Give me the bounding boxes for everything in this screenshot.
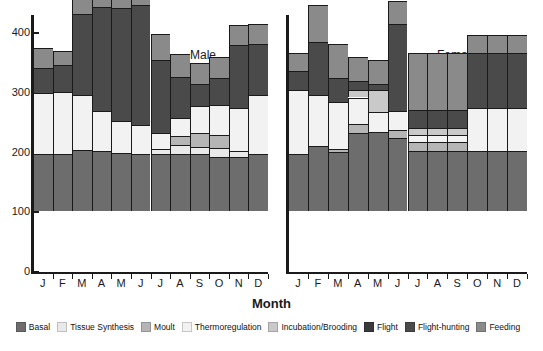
bar-segment-moult <box>447 142 467 151</box>
bar-segment-feeding <box>348 57 368 81</box>
bar-segment-feeding <box>507 35 527 53</box>
bar-segment-feeding <box>388 1 408 24</box>
bar-segment-basal <box>447 151 467 211</box>
bar-segment-thermoregulation <box>308 95 328 147</box>
bar-segment-flight_hunting <box>388 24 408 111</box>
bar-female-S-8 <box>447 0 467 211</box>
bar-segment-basal <box>487 151 507 211</box>
bar-segment-feeding <box>288 53 308 71</box>
bar-segment-flight_hunting <box>507 53 527 109</box>
bar-segment-thermoregulation <box>368 112 388 131</box>
legend-item-basal[interactable]: Basal <box>16 322 50 332</box>
bar-segment-flight_hunting <box>348 81 368 90</box>
x-axis-tick-label-J-0: J <box>289 277 307 289</box>
x-axis-tick-label-N-10: N <box>488 277 506 289</box>
bar-segment-moult <box>408 142 428 151</box>
bar-segment-incubation_brooding <box>427 128 447 135</box>
bar-segment-basal <box>507 151 527 211</box>
bar-segment-basal <box>368 132 388 211</box>
legend-label: Tissue Synthesis <box>70 322 134 332</box>
bar-segment-thermoregulation <box>507 108 527 151</box>
bar-female-N-10 <box>487 0 507 211</box>
bar-female-O-9 <box>467 0 487 211</box>
bar-female-M-4 <box>368 0 388 211</box>
legend-item-flight[interactable]: Flight <box>364 322 398 332</box>
legend-item-moult[interactable]: Moult <box>141 322 175 332</box>
legend-item-thermoregulation[interactable]: Thermoregulation <box>182 322 262 332</box>
bar-segment-flight_hunting <box>328 78 348 102</box>
bar-segment-basal <box>427 151 447 211</box>
x-axis-baseline <box>286 272 527 274</box>
legend-swatch-icon <box>476 322 486 332</box>
bar-segment-thermoregulation <box>348 98 368 125</box>
bar-segment-flight_hunting <box>447 110 467 128</box>
bar-segment-feeding <box>408 53 428 110</box>
bar-segment-feeding <box>487 35 507 53</box>
x-axis-tick-label-J-6: J <box>408 277 426 289</box>
bar-segment-thermoregulation <box>487 108 507 151</box>
bar-segment-basal <box>308 146 328 211</box>
bar-segment-basal <box>467 151 487 211</box>
bar-segment-thermoregulation <box>388 111 408 131</box>
legend-item-feeding[interactable]: Feeding <box>476 322 520 332</box>
bar-segment-feeding <box>328 44 348 78</box>
bar-segment-feeding <box>467 35 487 53</box>
bar-segment-basal <box>348 133 368 211</box>
bar-segment-thermoregulation <box>328 102 348 150</box>
bar-segment-basal <box>328 152 348 211</box>
legend-label: Flight <box>377 322 398 332</box>
bar-segment-incubation_brooding <box>408 128 428 135</box>
legend-swatch-icon <box>405 322 415 332</box>
legend-item-tissue-synthesis[interactable]: Tissue Synthesis <box>57 322 134 332</box>
x-axis-tick-label-F-1: F <box>309 277 327 289</box>
bar-segment-flight_hunting <box>288 71 308 91</box>
bar-segment-moult <box>388 130 408 138</box>
x-axis-tick-label-O-9: O <box>468 277 486 289</box>
chart-root: 0100200300400 Male JFMAMJJASOND Female J… <box>0 0 543 351</box>
bar-segment-incubation_brooding <box>447 128 467 135</box>
bar-segment-thermoregulation <box>288 90 308 154</box>
bar-segment-basal <box>288 154 308 211</box>
x-axis-tick-label-A-3: A <box>349 277 367 289</box>
bar-segment-flight_hunting <box>467 53 487 109</box>
legend-item-incubation-brooding[interactable]: Incubation/Brooding <box>268 322 357 332</box>
bar-segment-flight_hunting <box>308 42 328 95</box>
bar-segment-feeding <box>427 53 447 110</box>
bar-female-A-3 <box>348 0 368 211</box>
x-axis-tick <box>527 274 528 279</box>
panel-female: Female JFMAMJJASOND <box>0 0 543 290</box>
bar-female-J-5 <box>388 0 408 211</box>
bar-segment-incubation_brooding <box>368 90 388 113</box>
plot-area-female: JFMAMJJASOND <box>0 0 543 290</box>
bar-female-M-2 <box>328 0 348 211</box>
bar-segment-thermoregulation <box>467 108 487 151</box>
bar-segment-moult <box>427 142 447 151</box>
legend-label: Thermoregulation <box>195 322 262 332</box>
legend-swatch-icon <box>364 322 374 332</box>
bar-segment-flight_hunting <box>427 110 447 128</box>
legend-item-flight-hunting[interactable]: Flight-hunting <box>405 322 470 332</box>
bar-segment-flight_hunting <box>368 84 388 89</box>
legend-swatch-icon <box>182 322 192 332</box>
bar-segment-thermoregulation <box>447 135 467 142</box>
legend-label: Moult <box>154 322 175 332</box>
bar-female-J-0 <box>288 0 308 211</box>
bar-segment-basal <box>408 151 428 211</box>
legend-label: Incubation/Brooding <box>281 322 357 332</box>
legend-label: Basal <box>29 322 50 332</box>
x-axis-tick-label-A-7: A <box>428 277 446 289</box>
x-axis-label: Month <box>0 296 543 311</box>
legend-swatch-icon <box>268 322 278 332</box>
bar-female-A-7 <box>427 0 447 211</box>
x-axis-tick-label-D-11: D <box>508 277 526 289</box>
bar-female-D-11 <box>507 0 527 211</box>
bar-segment-thermoregulation <box>427 135 447 142</box>
bar-segment-basal <box>388 138 408 211</box>
x-axis-tick-label-J-5: J <box>389 277 407 289</box>
bar-segment-feeding <box>308 5 328 42</box>
bar-female-F-1 <box>308 0 328 211</box>
x-axis-tick-label-M-2: M <box>329 277 347 289</box>
chart-legend: BasalTissue SynthesisMoultThermoregulati… <box>0 322 543 332</box>
bar-segment-feeding <box>368 60 388 84</box>
bar-segment-incubation_brooding <box>348 90 368 97</box>
